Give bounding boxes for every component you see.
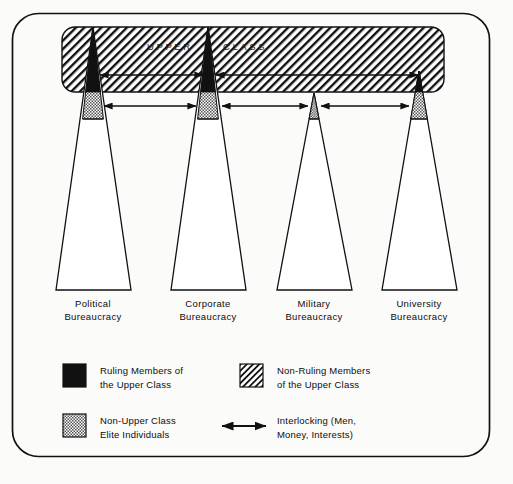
pillar-label-university: University Bureaucracy <box>369 297 469 323</box>
pillar-label-military-line1: Military <box>264 297 364 310</box>
figure-canvas: UPPER CLASS Political Bureaucracy Corpor… <box>0 0 513 484</box>
pillar-label-corporate-line1: Corporate <box>158 297 258 310</box>
power-structure-diagram <box>0 0 513 484</box>
pillar-label-university-line2: Bureaucracy <box>369 310 469 323</box>
pillar-university <box>382 71 457 290</box>
pillar-label-corporate: Corporate Bureaucracy <box>158 297 258 323</box>
legend-swatch-ruling <box>63 364 86 387</box>
banner-label-class: CLASS <box>223 41 267 52</box>
legend-label-nonruling-line1: Non-Ruling Members <box>277 364 370 378</box>
legend-label-interlocking: Interlocking (Men, Money, Interests) <box>277 414 356 441</box>
legend-label-interlocking-line1: Interlocking (Men, <box>277 414 356 428</box>
pillar-label-corporate-line2: Bureaucracy <box>158 310 258 323</box>
pillar-label-military-line2: Bureaucracy <box>264 310 364 323</box>
upper-class-banner <box>62 27 444 92</box>
pillar-label-military: Military Bureaucracy <box>264 297 364 323</box>
pillar-label-university-line1: University <box>369 297 469 310</box>
legend-label-nonruling: Non-Ruling Members of the Upper Class <box>277 364 370 391</box>
legend-label-ruling: Ruling Members of the Upper Class <box>100 364 183 391</box>
pillar-label-political: Political Bureaucracy <box>43 297 143 323</box>
legend-label-interlocking-line2: Money, Interests) <box>277 428 356 442</box>
legend-label-elite-line1: Non-Upper Class <box>100 414 176 428</box>
pillar-label-political-line1: Political <box>43 297 143 310</box>
legend-swatch-nonruling <box>240 364 263 387</box>
legend-label-elite-line2: Elite Individuals <box>100 428 176 442</box>
legend-label-nonruling-line2: of the Upper Class <box>277 378 370 392</box>
pillar-military <box>277 93 352 290</box>
legend-label-elite: Non-Upper Class Elite Individuals <box>100 414 176 441</box>
legend-label-ruling-line2: the Upper Class <box>100 378 183 392</box>
legend-label-ruling-line1: Ruling Members of <box>100 364 183 378</box>
legend-swatch-elite <box>63 414 86 437</box>
banner-label-upper: UPPER <box>147 41 193 52</box>
pillar-label-political-line2: Bureaucracy <box>43 310 143 323</box>
